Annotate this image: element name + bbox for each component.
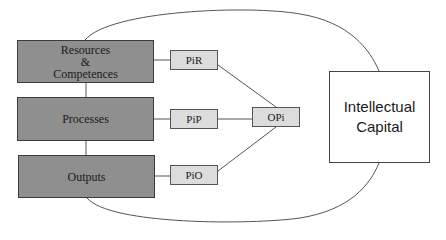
pio-box: PiO	[170, 165, 218, 185]
intellectual-capital-label: Intellectual Capital	[344, 97, 416, 137]
intellectual-capital-box: Intellectual Capital	[329, 71, 430, 163]
resources-competences-label: Resources & Competences	[53, 44, 118, 80]
opi-label: OPi	[267, 111, 284, 123]
resources-competences-box: Resources & Competences	[17, 40, 154, 83]
opi-box: OPi	[252, 107, 300, 127]
pir-label: PiR	[186, 54, 203, 66]
outputs-box: Outputs	[18, 155, 155, 198]
pio-label: PiO	[185, 169, 202, 181]
pir-box: PiR	[170, 50, 218, 70]
processes-box: Processes	[17, 97, 154, 141]
pip-label: PiP	[186, 113, 201, 125]
outputs-label: Outputs	[67, 171, 105, 183]
processes-label: Processes	[62, 113, 109, 125]
pip-box: PiP	[170, 109, 218, 129]
